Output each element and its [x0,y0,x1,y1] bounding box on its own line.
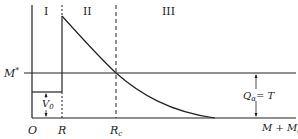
region-label-3: III [162,5,175,18]
q-arrow-down-icon [255,113,258,117]
region-label-2: II [83,5,92,18]
m-star-label: M* [3,66,19,80]
r-label: R [57,124,66,137]
region-label-1: I [44,5,48,18]
v0-arrow-up-icon [45,93,48,97]
origin-label: O [28,124,37,137]
q-arrow-up-icon [255,74,258,78]
rc-label: Rc [109,124,122,138]
q-energy-label: Qα= T [243,90,275,103]
baseline-label: M + Mα [261,122,298,135]
potential-diagram: I II III M* V0 O R Rc Qα= T M + Mα [0,0,298,139]
v0-arrow-down-icon [45,113,48,117]
coulomb-barrier-curve [62,16,215,118]
